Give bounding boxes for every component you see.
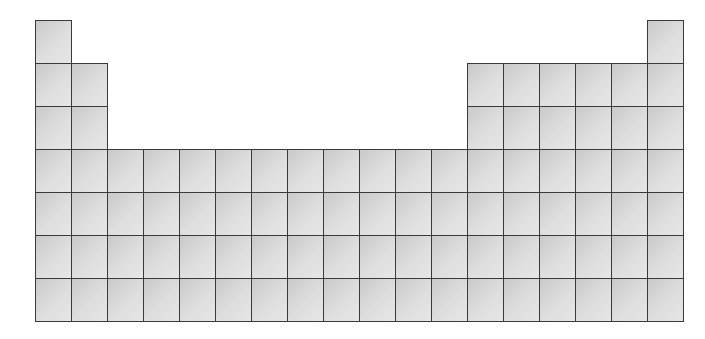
element-cell (107, 235, 144, 279)
element-cell (179, 278, 216, 322)
element-cell (467, 235, 504, 279)
element-cell (611, 192, 648, 236)
element-cell (35, 235, 72, 279)
periodic-table-grid (0, 0, 705, 339)
element-cell (323, 235, 360, 279)
element-cell (251, 278, 288, 322)
element-cell (395, 149, 432, 193)
element-cell (431, 278, 468, 322)
element-cell (575, 63, 612, 107)
element-cell (539, 235, 576, 279)
element-cell (395, 235, 432, 279)
element-cell (323, 192, 360, 236)
element-cell (467, 192, 504, 236)
element-cell (611, 106, 648, 150)
element-cell (35, 278, 72, 322)
element-cell (539, 149, 576, 193)
element-cell (359, 278, 396, 322)
element-cell (503, 63, 540, 107)
element-cell (467, 106, 504, 150)
element-cell (287, 278, 324, 322)
element-cell (503, 278, 540, 322)
element-cell (323, 149, 360, 193)
element-cell (467, 278, 504, 322)
element-cell (647, 278, 684, 322)
element-cell (71, 106, 108, 150)
element-cell (647, 63, 684, 107)
element-cell (71, 235, 108, 279)
element-cell (647, 106, 684, 150)
element-cell (251, 192, 288, 236)
element-cell (539, 106, 576, 150)
element-cell (539, 192, 576, 236)
element-cell (539, 278, 576, 322)
element-cell (503, 149, 540, 193)
element-cell (431, 149, 468, 193)
element-cell (179, 235, 216, 279)
element-cell (503, 106, 540, 150)
element-cell (71, 192, 108, 236)
element-cell (575, 192, 612, 236)
element-cell (539, 63, 576, 107)
element-cell (107, 278, 144, 322)
element-cell (143, 278, 180, 322)
element-cell (287, 235, 324, 279)
element-cell (143, 192, 180, 236)
element-cell (359, 235, 396, 279)
element-cell (395, 278, 432, 322)
element-cell (323, 278, 360, 322)
element-cell (35, 149, 72, 193)
element-cell (431, 235, 468, 279)
element-cell (647, 235, 684, 279)
element-cell (71, 149, 108, 193)
element-cell (287, 149, 324, 193)
element-cell (179, 149, 216, 193)
element-cell (503, 235, 540, 279)
element-cell (71, 278, 108, 322)
element-cell (359, 149, 396, 193)
element-cell (35, 106, 72, 150)
element-cell (431, 192, 468, 236)
element-cell (647, 149, 684, 193)
element-cell (467, 149, 504, 193)
element-cell (467, 63, 504, 107)
element-cell (179, 192, 216, 236)
element-cell (359, 192, 396, 236)
element-cell (503, 192, 540, 236)
element-cell (575, 106, 612, 150)
element-cell (647, 192, 684, 236)
element-cell (575, 149, 612, 193)
element-cell (143, 149, 180, 193)
element-cell (611, 235, 648, 279)
element-cell (575, 235, 612, 279)
element-cell (575, 278, 612, 322)
element-cell (35, 192, 72, 236)
element-cell (215, 149, 252, 193)
element-cell (611, 149, 648, 193)
element-cell (35, 20, 72, 64)
element-cell (143, 235, 180, 279)
element-cell (107, 192, 144, 236)
element-cell (611, 278, 648, 322)
element-cell (215, 235, 252, 279)
element-cell (287, 192, 324, 236)
element-cell (611, 63, 648, 107)
element-cell (251, 149, 288, 193)
element-cell (395, 192, 432, 236)
element-cell (251, 235, 288, 279)
element-cell (647, 20, 684, 64)
element-cell (71, 63, 108, 107)
element-cell (35, 63, 72, 107)
element-cell (107, 149, 144, 193)
element-cell (215, 192, 252, 236)
element-cell (215, 278, 252, 322)
